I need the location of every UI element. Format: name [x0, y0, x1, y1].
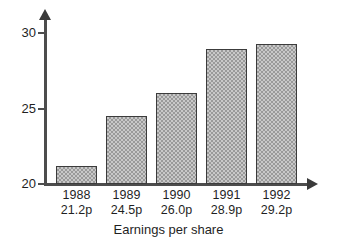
x-category-1989: 1989: [102, 188, 152, 203]
x-value-1990: 26.0p: [152, 203, 202, 218]
x-value-1992: 29.2p: [252, 203, 302, 218]
x-value-1988: 21.2p: [52, 203, 102, 218]
x-category-1988: 1988: [52, 188, 102, 203]
x-category-1990: 1990: [152, 188, 202, 203]
bar-1988: [56, 166, 97, 184]
x-label-group-1988: 1988 21.2p: [52, 188, 102, 218]
x-value-1989: 24.5p: [102, 203, 152, 218]
x-category-1992: 1992: [252, 188, 302, 203]
x-label-group-1989: 1989 24.5p: [102, 188, 152, 218]
x-value-1991: 28.9p: [202, 203, 252, 218]
bar-chart: 30 25 20 1988 21.2p 1989 24.5p 1990 26.0…: [0, 0, 337, 246]
bar-1989: [106, 116, 147, 184]
bar-1990: [156, 93, 197, 184]
x-axis-title: Earnings per share: [0, 222, 337, 237]
x-label-group-1992: 1992 29.2p: [252, 188, 302, 218]
x-label-group-1990: 1990 26.0p: [152, 188, 202, 218]
x-label-group-1991: 1991 28.9p: [202, 188, 252, 218]
bar-1991: [206, 49, 247, 184]
x-category-1991: 1991: [202, 188, 252, 203]
bar-1992: [256, 44, 297, 184]
